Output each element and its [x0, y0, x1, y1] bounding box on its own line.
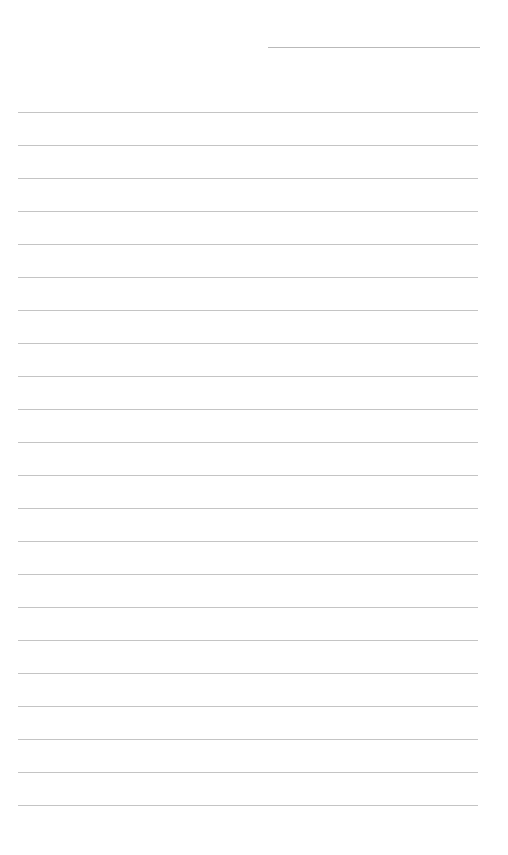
- ruled-line: [18, 310, 478, 311]
- ruled-line: [18, 607, 478, 608]
- ruled-line: [18, 145, 478, 146]
- ruled-line: [18, 772, 478, 773]
- ruled-line: [18, 805, 478, 806]
- ruled-line: [18, 475, 478, 476]
- ruled-line: [18, 277, 478, 278]
- ruled-line: [18, 508, 478, 509]
- ruled-line: [18, 244, 478, 245]
- ruled-line: [18, 343, 478, 344]
- ruled-line: [18, 409, 478, 410]
- ruled-line: [18, 541, 478, 542]
- ruled-line: [18, 706, 478, 707]
- ruled-line: [18, 211, 478, 212]
- ruled-line: [18, 112, 478, 113]
- ruled-line: [18, 376, 478, 377]
- ruled-line: [18, 673, 478, 674]
- ruled-lines: [0, 0, 508, 855]
- ruled-line: [18, 739, 478, 740]
- ruled-line: [18, 178, 478, 179]
- ruled-line: [18, 640, 478, 641]
- ruled-line: [18, 574, 478, 575]
- ruled-line: [18, 442, 478, 443]
